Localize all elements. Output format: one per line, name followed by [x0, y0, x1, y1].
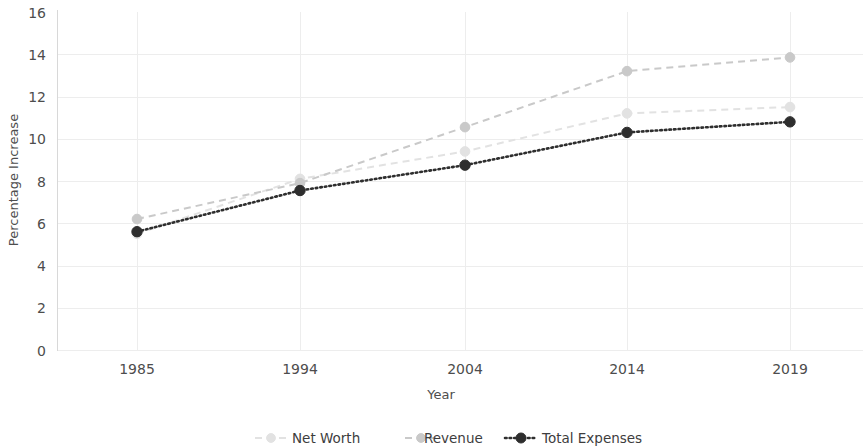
y-tick-label: 16	[28, 5, 46, 21]
legend-marker	[267, 434, 276, 443]
data-point	[622, 109, 632, 119]
legend-label: Revenue	[424, 430, 483, 446]
data-point	[785, 117, 795, 127]
y-tick-label: 14	[28, 47, 46, 63]
y-tick-label: 12	[28, 89, 46, 105]
legend-marker	[516, 433, 526, 443]
y-tick-label: 0	[37, 343, 46, 359]
data-point	[460, 160, 470, 170]
x-tick-label: 1985	[119, 361, 155, 377]
x-tick-label: 2004	[447, 361, 483, 377]
legend-item-revenue[interactable]: Revenue	[405, 430, 483, 446]
data-point	[132, 214, 142, 224]
data-point	[460, 147, 470, 157]
y-tick-label: 8	[37, 174, 46, 190]
data-point	[132, 227, 142, 237]
y-tick-label: 6	[37, 216, 46, 232]
chart-legend: Net WorthRevenueTotal Expenses	[255, 430, 642, 446]
x-tick-label: 2019	[772, 361, 808, 377]
data-point	[785, 102, 795, 112]
data-point	[622, 66, 632, 76]
x-tick-label: 2014	[609, 361, 645, 377]
y-axis-tick-labels: 0246810121416	[28, 5, 46, 359]
line-chart: 0246810121416 19851994200420142019 Year …	[0, 0, 863, 448]
x-tick-label: 1994	[282, 361, 318, 377]
y-tick-label: 4	[37, 258, 46, 274]
data-point	[785, 53, 795, 63]
y-tick-label: 10	[28, 131, 46, 147]
y-axis-title: Percentage Increase	[6, 114, 21, 246]
data-point	[295, 185, 305, 195]
legend-label: Total Expenses	[541, 430, 642, 446]
legend-item-total-expenses[interactable]: Total Expenses	[505, 430, 642, 446]
x-axis-tick-labels: 19851994200420142019	[119, 361, 808, 377]
y-tick-label: 2	[37, 300, 46, 316]
data-point	[460, 122, 470, 132]
chart-canvas: 0246810121416 19851994200420142019 Year …	[0, 0, 863, 448]
legend-label: Net Worth	[292, 430, 360, 446]
x-axis-title: Year	[426, 387, 455, 402]
legend-item-net-worth[interactable]: Net Worth	[255, 430, 360, 446]
data-point	[622, 127, 632, 137]
